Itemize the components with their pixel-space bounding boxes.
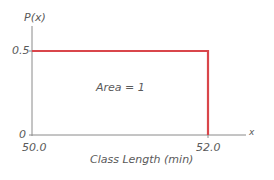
area-annotation: Area = 1 [96,81,145,94]
y-axis-label: P(x) [24,11,46,24]
x-axis-symbol: x [249,127,254,137]
ytick-label-bottom: 0 [19,128,26,141]
xtick-label-right: 52.0 [196,141,221,154]
x-axis-label: Class Length (min) [90,153,193,166]
ytick-label-top: 0.5 [12,44,30,57]
xtick-label-left: 50.0 [22,141,47,154]
